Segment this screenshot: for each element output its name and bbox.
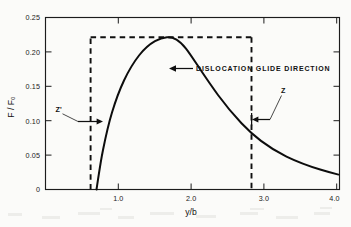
y-tick-label-4: 0.20 [26,48,40,57]
x-tick-labels: 1.0 2.0 3.0 4.0 [113,194,339,203]
x-tick-label-2: 3.0 [259,194,269,203]
z-prime-arrowhead [97,119,103,125]
y-tick-label-2: 0.10 [26,117,40,126]
glide-direction-label: DISLOCATION GLIDE DIRECTION [196,65,330,72]
glide-direction-arrowhead [169,65,176,72]
x-axis-title: y/b [185,207,197,217]
y-tick-label-5: 0.25 [26,13,40,22]
z-prime-label: Z' [56,105,62,114]
y-axis-ticks [46,18,52,190]
z-prime-marker: Z' [56,105,104,125]
x-tick-label-1: 2.0 [186,194,196,203]
y-tick-label-3: 0.15 [26,82,40,91]
data-curve [97,37,339,189]
x-tick-label-3: 4.0 [329,194,339,203]
z-marker: Z [252,86,286,126]
y-axis-title: F / F₀ [6,96,16,118]
chart-svg: 0 0.05 0.10 0.15 0.20 0.25 1.0 2.0 3.0 4… [0,0,351,227]
z-label: Z [281,86,286,95]
y-tick-labels: 0 0.05 0.10 0.15 0.20 0.25 [26,13,40,194]
y-axis-ticks-right [334,52,340,155]
plot-frame [46,18,340,190]
y-tick-label-1: 0.05 [26,151,40,160]
x-tick-label-0: 1.0 [113,194,123,203]
x-axis-ticks-top [118,18,336,24]
reference-dashed-box [91,37,252,189]
y-tick-label-0: 0 [36,185,40,194]
figure-panel: 0 0.05 0.10 0.15 0.20 0.25 1.0 2.0 3.0 4… [0,0,351,227]
scan-noise [8,207,332,219]
glide-direction-annotation: DISLOCATION GLIDE DIRECTION [169,65,330,72]
x-axis-ticks [118,184,336,190]
z-arrowhead [252,117,258,123]
